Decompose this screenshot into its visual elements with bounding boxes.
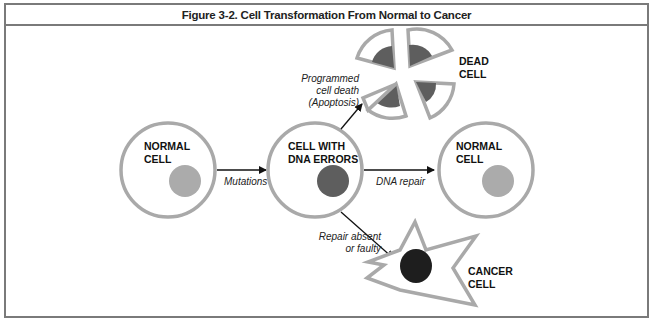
dna-errors-cell: CELL WITH DNA ERRORS (268, 123, 362, 217)
cancer-nucleus-icon (400, 249, 432, 283)
dead-cell: DEAD CELL (357, 29, 489, 118)
repair-absent-label-1: Repair absent (319, 231, 382, 242)
dna-repair-arrow: DNA repair (364, 170, 434, 187)
apoptosis-label-3: (Apoptosis) (308, 97, 359, 108)
repair-absent-arrow: Repair absent or faulty (319, 212, 393, 258)
dead-cell-label-2: CELL (459, 68, 487, 80)
cell-transformation-diagram: NORMAL CELL Mutations CELL WITH DNA ERRO… (0, 0, 654, 323)
apoptosis-arrow: Programmed cell death (Apoptosis) (301, 73, 362, 129)
cancer-cell-label-1: CANCER (468, 265, 513, 277)
cancer-cell-label-2: CELL (468, 278, 496, 290)
normal-nucleus-icon (482, 165, 514, 197)
normal-cell-left-label-1: NORMAL (144, 140, 191, 152)
normal-cell-right: NORMAL CELL (439, 123, 533, 217)
dna-repair-label: DNA repair (376, 176, 426, 187)
error-nucleus-icon (317, 165, 349, 197)
apoptosis-label-2: cell death (316, 85, 359, 96)
normal-cell-right-label-1: NORMAL (456, 140, 503, 152)
mutations-label: Mutations (224, 176, 267, 187)
dead-cell-label-1: DEAD (459, 55, 489, 67)
repair-absent-label-2: or faulty (345, 243, 382, 254)
normal-cell-right-label-2: CELL (456, 153, 484, 165)
normal-cell-left-label-2: CELL (144, 153, 172, 165)
normal-nucleus-icon (169, 165, 201, 197)
dna-errors-label-2: DNA ERRORS (288, 153, 358, 165)
normal-cell-left: NORMAL CELL (121, 123, 215, 217)
dna-errors-label-1: CELL WITH (288, 140, 345, 152)
apoptosis-label-1: Programmed (301, 73, 359, 84)
cancer-cell: CANCER CELL (367, 222, 513, 305)
mutations-arrow: Mutations (217, 170, 267, 187)
